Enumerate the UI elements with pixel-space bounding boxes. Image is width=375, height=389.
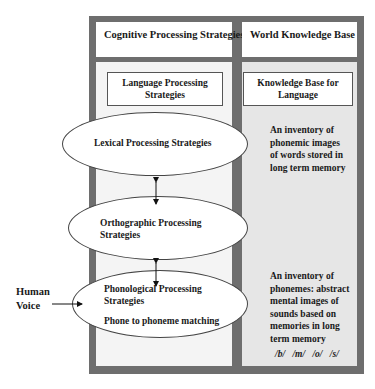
arrows-layer (0, 0, 375, 389)
